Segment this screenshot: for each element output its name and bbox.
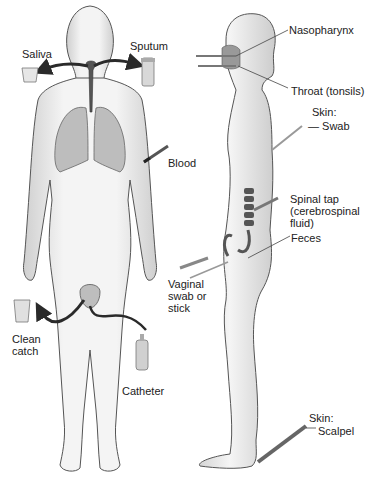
skin-swab-label: — Swab [308,120,350,132]
skin-swab [272,126,302,150]
front-view-figure [23,6,156,471]
saliva-cup-icon [22,68,38,82]
feces-label: Feces [291,232,321,244]
clean-catch-label: Clean catch [12,333,41,357]
skin-scalpel-header-label: Skin: [309,412,333,424]
spine [244,188,254,226]
saliva-label: Saliva [22,48,52,60]
side-view-figure [199,14,275,469]
sputum-label: Sputum [130,40,168,52]
throat-label: Throat (tonsils) [291,85,364,97]
blood-label: Blood [168,157,196,169]
skin-scalpel-label: Scalpel [318,425,354,437]
spinal-tap-label: Spinal tap (cerebrospinal fluid) [290,193,360,229]
nasopharynx-label: Nasopharynx [289,24,354,36]
vaginal-swab [190,262,228,278]
clean-catch-cup-icon [14,300,30,322]
catheter-label: Catheter [122,385,164,397]
sputum-container-icon [141,58,155,86]
vaginal-label: Vaginal swab or stick [168,278,207,314]
catheter-bottle-icon [136,334,148,370]
vaginal-stick [180,258,208,268]
skin-swab-header-label: Skin: [312,106,336,118]
scalpel-icon [258,426,306,462]
